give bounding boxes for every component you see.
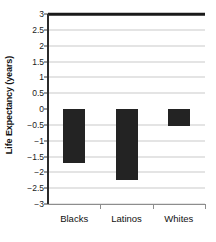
gridline <box>48 77 205 78</box>
y-axis-tick-label: 1.5 <box>18 57 44 66</box>
x-axis-tick-mark <box>205 204 206 209</box>
y-axis-tick-label: −1.5 <box>18 152 44 161</box>
x-axis-category-label: Whites <box>164 214 193 224</box>
y-axis-line <box>47 14 49 204</box>
bar <box>116 109 138 180</box>
bar-chart-figure: Life Expectancy (years) 32.521.510.50−0.… <box>0 0 216 242</box>
zero-baseline <box>48 13 205 16</box>
y-axis-tick-label: −2 <box>18 168 44 177</box>
bar <box>63 109 85 163</box>
x-axis-category-label: Latinos <box>111 214 142 224</box>
gridline <box>48 61 205 62</box>
x-axis-category-labels: BlacksLatinosWhites <box>48 214 205 230</box>
plot-area <box>48 14 205 204</box>
y-axis-tick-label: 1 <box>18 73 44 82</box>
x-axis-tick-mark <box>153 204 154 209</box>
y-axis-tick-label: −1 <box>18 136 44 145</box>
y-axis-tick-label: −0.5 <box>18 121 44 130</box>
y-axis-tick-labels: 32.521.510.50−0.5−1−1.5−2−2.5−3 <box>18 14 44 204</box>
y-axis-tick-label: 0.5 <box>18 89 44 98</box>
gridline <box>48 29 205 30</box>
y-axis-tick-label: 3 <box>18 10 44 19</box>
y-axis-tick-label: −3 <box>18 200 44 209</box>
x-axis-line <box>48 204 205 205</box>
bar <box>168 109 190 126</box>
gridline <box>48 188 205 189</box>
y-axis-title: Life Expectancy (years) <box>0 0 18 210</box>
gridline <box>48 93 205 94</box>
y-axis-tick-label: 0 <box>18 105 44 114</box>
y-axis-tick-label: 2.5 <box>18 26 44 35</box>
x-axis-category-label: Blacks <box>60 214 88 224</box>
y-axis-title-text: Life Expectancy (years) <box>4 56 14 154</box>
x-axis-tick-mark <box>100 204 101 209</box>
y-axis-tick-label: 2 <box>18 41 44 50</box>
y-axis-tick-label: −2.5 <box>18 184 44 193</box>
gridline <box>48 45 205 46</box>
